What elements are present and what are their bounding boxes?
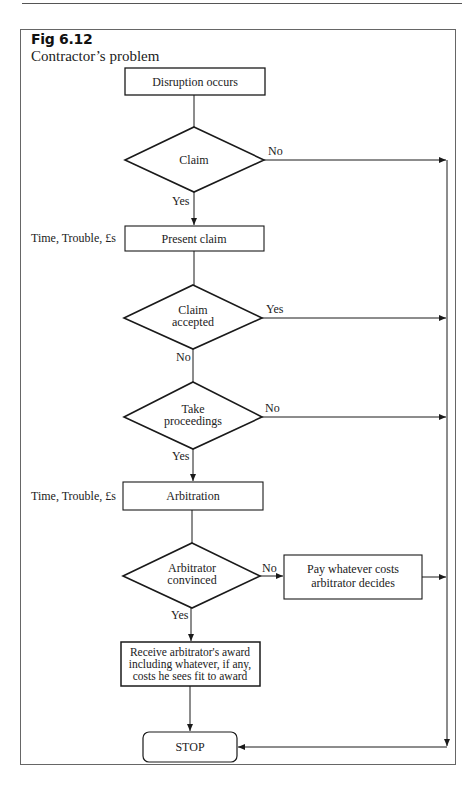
node-take-proceedings-decision: Take proceedings <box>124 382 262 449</box>
edge-label-convinced-no: No <box>262 561 277 575</box>
node-claim-accepted-label-2: accepted <box>172 315 214 329</box>
node-take-proceedings-label-2: proceedings <box>164 414 222 428</box>
node-present-claim-label: Present claim <box>162 232 228 246</box>
node-claim-decision: Claim <box>125 127 264 192</box>
node-disruption-occurs: Disruption occurs <box>125 68 265 95</box>
node-disruption-label: Disruption occurs <box>152 75 238 89</box>
node-claim-accepted-decision: Claim accepted <box>124 285 262 349</box>
edge-label-claim-yes: Yes <box>172 194 190 208</box>
node-receive-award: Receive arbitrator's award including wha… <box>121 642 260 686</box>
edge-label-proceedings-no: No <box>265 401 280 415</box>
node-arbitration: Arbitration <box>123 482 263 510</box>
edge-label-convinced-yes: Yes <box>171 608 189 622</box>
node-stop: STOP <box>143 732 237 762</box>
node-arbitrator-convinced-decision: Arbitrator convinced <box>123 543 260 608</box>
node-pay-costs-label-1: Pay whatever costs <box>307 562 399 576</box>
node-arbitrator-convinced-label-2: convinced <box>167 573 216 587</box>
edge-label-claim-no: No <box>268 144 283 158</box>
side-note-arbitration: Time, Trouble, £s <box>31 489 116 503</box>
side-note-present-claim: Time, Trouble, £s <box>31 231 116 245</box>
node-claim-label: Claim <box>179 153 209 167</box>
node-arbitration-label: Arbitration <box>166 489 219 503</box>
node-pay-costs-label-2: arbitrator decides <box>311 576 395 590</box>
node-present-claim: Present claim <box>125 226 264 251</box>
node-receive-award-label-1: Receive arbitrator's award <box>130 646 250 658</box>
edge-label-accepted-no: No <box>176 350 191 364</box>
node-pay-costs: Pay whatever costs arbitrator decides <box>284 555 422 599</box>
node-receive-award-label-3: costs he sees fit to award <box>133 670 248 682</box>
flowchart: Disruption occurs Claim No Yes Present c… <box>0 0 475 791</box>
node-stop-label: STOP <box>175 740 204 754</box>
edge-label-proceedings-yes: Yes <box>172 449 190 463</box>
edge-label-accepted-yes: Yes <box>266 302 284 316</box>
